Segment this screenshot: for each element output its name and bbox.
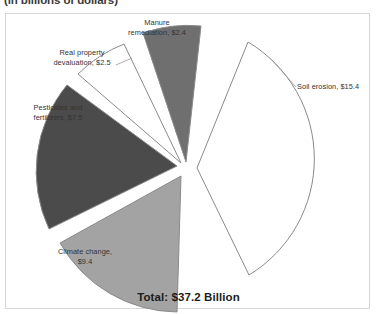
label-pesticides-and-fertilizers: Pesticides and fertilizers, $7.5 bbox=[6, 103, 110, 122]
chart-page: (in billions of dollars) Manure remediat bbox=[0, 0, 377, 314]
label-soil-erosion: Soil erosion, $15.4 bbox=[297, 82, 375, 92]
label-manure-remediation: Manure remediation, $2.4 bbox=[103, 18, 211, 37]
label-climate-change: Climate change, $9.4 bbox=[32, 247, 138, 266]
chart-caption: (in billions of dollars) bbox=[4, 0, 118, 6]
label-real-property-devaluation: Real property devaluation, $2.5 bbox=[28, 48, 136, 67]
total-label: Total: $37.2 Billion bbox=[0, 291, 377, 303]
